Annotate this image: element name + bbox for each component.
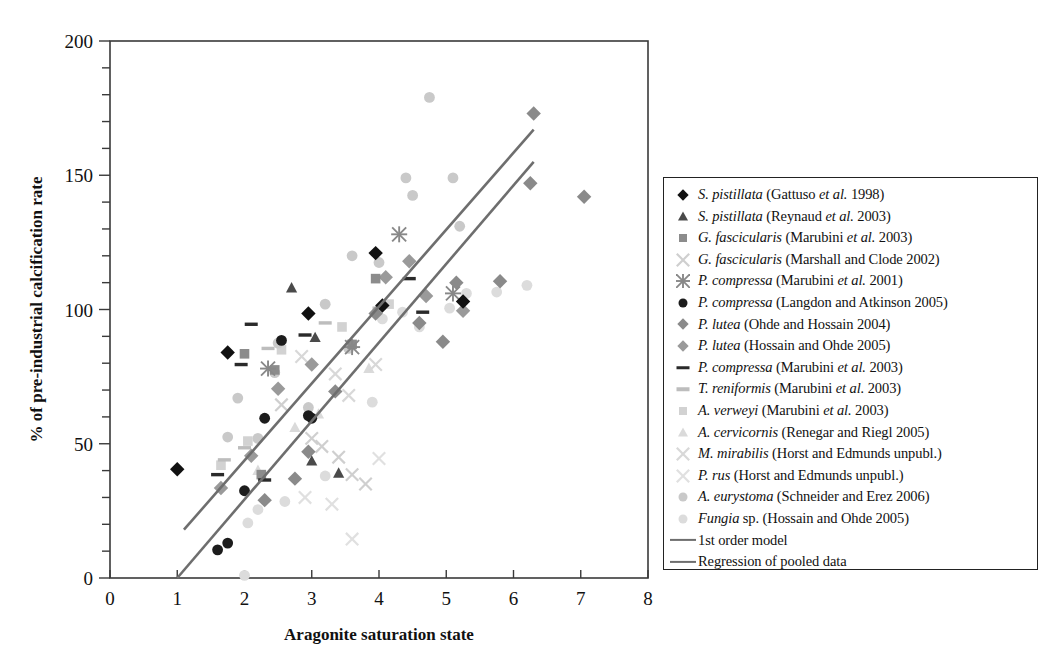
legend-label: S. pistillata (Gattuso et al. 1998)	[698, 184, 884, 206]
series-10	[216, 299, 394, 470]
legend-row[interactable]: A. cervicornis (Renegar and Riegl 2005)	[668, 422, 1033, 444]
legend-label: P. lutea (Ohde and Hossain 2004)	[698, 314, 890, 336]
x-tick-label: 7	[576, 588, 586, 609]
legend-marker-square-icon	[668, 400, 698, 422]
legend-row[interactable]: P. lutea (Hossain and Ohde 2005)	[668, 335, 1033, 357]
legend-row[interactable]: P. lutea (Ohde and Hossain 2004)	[668, 314, 1033, 336]
legend-label: G. fascicularis (Marshall and Clode 2002…	[698, 249, 940, 271]
x-tick-label: 5	[442, 588, 452, 609]
legend-row[interactable]: T. reniformis (Marubini et al. 2003)	[668, 378, 1033, 400]
legend-row[interactable]: G. fascicularis (Marubini et al. 2003)	[668, 227, 1033, 249]
legend-marker-triangle-icon	[668, 206, 698, 228]
legend-marker-x-icon	[668, 249, 698, 271]
x-tick-label: 4	[374, 588, 384, 609]
legend-row[interactable]: P. compressa (Marubini et al. 2001)	[668, 270, 1033, 292]
legend-label: P. compressa (Marubini et al. 2003)	[698, 357, 903, 379]
legend-marker-x-icon	[668, 443, 698, 465]
legend-row[interactable]: Regression of pooled data	[668, 551, 1033, 573]
x-tick-label: 6	[509, 588, 519, 609]
legend-marker-diamond-icon	[668, 184, 698, 206]
legend-row[interactable]: P. rus (Horst and Edmunds unpubl.)	[668, 465, 1033, 487]
series-13	[299, 452, 385, 545]
y-tick-label: 100	[65, 300, 94, 321]
legend-label: P. rus (Horst and Edmunds unpubl.)	[698, 465, 903, 487]
legend-row[interactable]: S. pistillata (Reynaud et al. 2003)	[668, 206, 1033, 228]
trend-line-0	[184, 130, 534, 530]
y-tick-label: 0	[84, 568, 94, 589]
legend-label: A. eurystoma (Schneider and Erez 2006)	[698, 486, 929, 508]
legend-marker-diamond-icon	[668, 335, 698, 357]
legend-label: G. fascicularis (Marubini et al. 2003)	[698, 227, 912, 249]
series-6	[257, 106, 591, 507]
trend-line-1	[177, 162, 533, 578]
legend-label: P. compressa (Langdon and Atkinson 2005)	[698, 292, 948, 314]
legend-row[interactable]: Fungia sp. (Hossain and Ohde 2005)	[668, 508, 1033, 530]
legend-row[interactable]: M. mirabilis (Horst and Edmunds unpubl.)	[668, 443, 1033, 465]
legend-label: 1st order model	[698, 530, 788, 552]
x-tick-label: 8	[643, 588, 653, 609]
legend-label: A. cervicornis (Renegar and Riegl 2005)	[698, 422, 929, 444]
x-axis-label: Aragonite saturation state	[284, 625, 474, 644]
x-tick-label: 1	[173, 588, 183, 609]
legend-marker-diamond-icon	[668, 314, 698, 336]
legend-label: T. reniformis (Marubini et al. 2003)	[698, 378, 901, 400]
legend-marker-star-icon	[668, 270, 698, 292]
series-15	[239, 280, 532, 581]
x-tick-label: 0	[105, 588, 115, 609]
series-0	[170, 246, 470, 477]
legend-marker-dash-icon	[668, 357, 698, 379]
series-8	[211, 277, 429, 482]
legend-row[interactable]: 1st order model	[668, 530, 1033, 552]
legend-label: Regression of pooled data	[698, 551, 847, 573]
legend-marker-circle-icon	[668, 292, 698, 314]
legend-label: S. pistillata (Reynaud et al. 2003)	[698, 206, 891, 228]
x-tick-label: 2	[240, 588, 250, 609]
legend-row[interactable]: G. fascicularis (Marshall and Clode 2002…	[668, 249, 1033, 271]
legend-marker-circle-icon	[668, 508, 698, 530]
legend-marker-dash-icon	[668, 378, 698, 400]
y-axis-label: % of pre-industrial calcification rate	[27, 176, 46, 442]
legend-marker-x-icon	[668, 465, 698, 487]
legend-marker-line-icon	[668, 551, 698, 573]
legend-row[interactable]: P. compressa (Marubini et al. 2003)	[668, 357, 1033, 379]
legend-row[interactable]: S. pistillata (Gattuso et al. 1998)	[668, 184, 1033, 206]
legend-marker-circle-icon	[668, 486, 698, 508]
legend-row[interactable]: A. eurystoma (Schneider and Erez 2006)	[668, 486, 1033, 508]
x-tick-label: 3	[307, 588, 317, 609]
y-tick-label: 200	[65, 31, 94, 52]
legend-row[interactable]: A. verweyi (Marubini et al. 2003)	[668, 400, 1033, 422]
legend-marker-triangle-icon	[668, 422, 698, 444]
legend-row[interactable]: P. compressa (Langdon and Atkinson 2005)	[668, 292, 1033, 314]
legend-label: P. compressa (Marubini et al. 2001)	[698, 270, 903, 292]
legend-box: S. pistillata (Gattuso et al. 1998)S. pi…	[663, 177, 1038, 570]
legend-marker-line-icon	[668, 530, 698, 552]
y-tick-label: 150	[65, 165, 94, 186]
legend-label: Fungia sp. (Hossain and Ohde 2005)	[698, 508, 909, 530]
legend-label: A. verweyi (Marubini et al. 2003)	[698, 400, 888, 422]
legend-marker-square-icon	[668, 227, 698, 249]
legend-label: P. lutea (Hossain and Ohde 2005)	[698, 335, 890, 357]
legend-label: M. mirabilis (Horst and Edmunds unpubl.)	[698, 443, 942, 465]
y-tick-label: 50	[74, 434, 93, 455]
